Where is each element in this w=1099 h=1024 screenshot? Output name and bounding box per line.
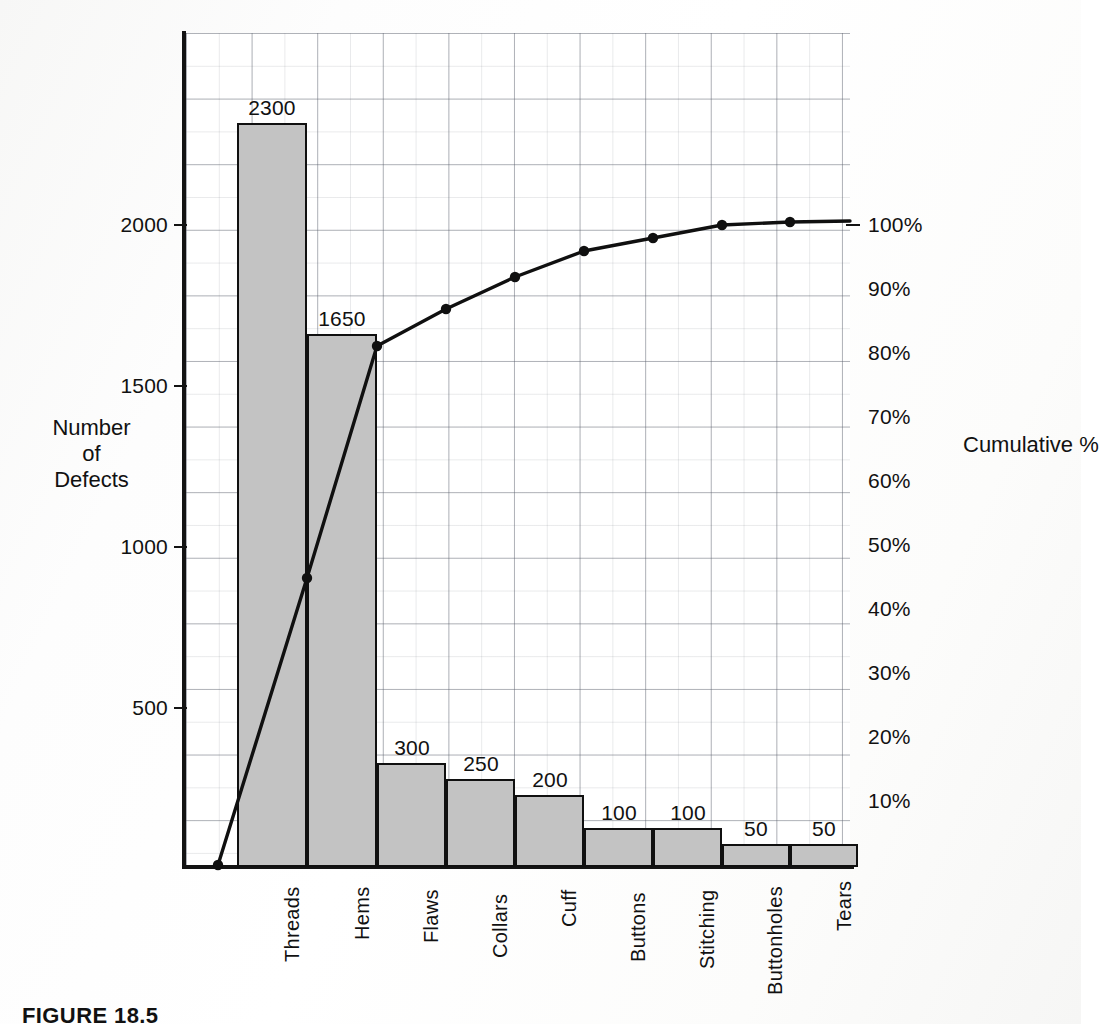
y2-tick-label-40: 40% (868, 597, 911, 621)
y2-tick-100 (846, 224, 860, 226)
y-tick-label-2000: 2000 (120, 213, 168, 237)
bar-value-hems: 1650 (297, 307, 387, 331)
x-category-threads: Threads (281, 887, 304, 962)
y-axis-title-line-1: Number (14, 415, 169, 441)
y2-tick-label-30: 30% (868, 661, 911, 685)
y2-tick-label-90: 90% (868, 277, 911, 301)
bar-tears (790, 844, 858, 867)
x-category-hems: Hems (351, 887, 374, 940)
x-category-collars: Collars (489, 894, 512, 958)
y2-tick-label-50: 50% (868, 533, 911, 557)
y2-tick-label-100: 100% (868, 213, 923, 237)
y-axis-left-line (182, 31, 186, 869)
y2-tick-label-70: 70% (868, 405, 911, 429)
bar-value-cuff: 200 (505, 768, 595, 792)
y-axis-right-title: Cumulative % (963, 432, 1099, 458)
bar-value-tears: 50 (780, 817, 868, 841)
x-category-tears: Tears (833, 881, 856, 931)
x-category-cuff: Cuff (558, 889, 581, 927)
y-tick-label-1000: 1000 (120, 535, 168, 559)
y-axis-title-line-3: Defects (14, 467, 169, 493)
bar-collars (446, 779, 515, 867)
bar-flaws (377, 763, 446, 867)
y-tick-500 (174, 707, 187, 709)
y-axis-title-line-2: of (14, 441, 169, 467)
y-tick-label-500: 500 (132, 696, 168, 720)
y-tick-1000 (174, 546, 187, 548)
bar-threads (237, 123, 307, 867)
bar-hems (307, 334, 377, 867)
y2-tick-label-60: 60% (868, 469, 911, 493)
y-tick-1500 (174, 385, 187, 387)
x-category-stitching: Stitching (696, 890, 719, 969)
bar-value-threads: 2300 (227, 96, 317, 120)
figure-caption: FIGURE 18.5 (22, 1003, 158, 1024)
y-axis-left-labels: 2000 1500 1000 500 (0, 0, 168, 1024)
bar-buttons (584, 828, 653, 867)
y-tick-2000 (174, 224, 187, 226)
x-category-buttons: Buttons (627, 892, 650, 962)
x-category-flaws: Flaws (420, 889, 443, 943)
x-category-buttonholes: Buttonholes (764, 886, 787, 995)
y2-tick-label-20: 20% (868, 725, 911, 749)
bar-buttonholes (722, 844, 790, 867)
y-tick-label-1500: 1500 (120, 374, 168, 398)
y2-tick-label-10: 10% (868, 789, 911, 813)
y2-tick-label-80: 80% (868, 341, 911, 365)
y-axis-left-title: Number of Defects (14, 415, 169, 493)
